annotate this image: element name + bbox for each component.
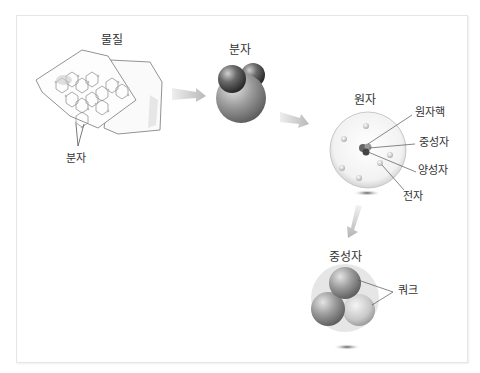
label-atom: 원자 bbox=[354, 94, 376, 106]
label-neutron: 중성자 bbox=[329, 251, 362, 263]
matter-illustration bbox=[36, 50, 162, 146]
arrow-matter-to-molecule bbox=[172, 88, 206, 102]
label-matter-molecule: 분자 bbox=[66, 153, 86, 164]
neutron-illustration bbox=[311, 264, 393, 350]
label-electron: 전자 bbox=[403, 191, 423, 202]
label-matter: 물질 bbox=[101, 34, 123, 46]
arrow-molecule-to-atom bbox=[280, 112, 309, 128]
label-quark: 쿼크 bbox=[398, 285, 418, 296]
atom-illustration bbox=[330, 112, 416, 196]
label-proton: 양성자 bbox=[418, 165, 448, 176]
label-molecule: 분자 bbox=[229, 44, 251, 56]
label-nucleus: 원자핵 bbox=[415, 107, 445, 118]
label-neutron-part: 중성자 bbox=[419, 137, 449, 148]
molecule-illustration bbox=[216, 63, 266, 123]
arrow-atom-to-neutron bbox=[347, 205, 362, 238]
